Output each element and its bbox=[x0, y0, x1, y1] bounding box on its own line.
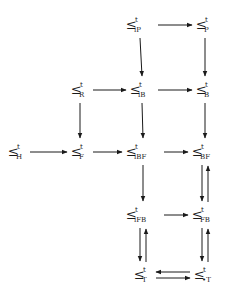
subscript: B bbox=[204, 91, 209, 99]
node-iBF: ≤tiBF bbox=[126, 143, 146, 161]
superscript: t bbox=[80, 143, 83, 151]
subscript: BF bbox=[200, 153, 210, 161]
node-BF: ≤tBF bbox=[192, 143, 210, 161]
subscript: iB bbox=[138, 91, 145, 99]
node-B: ≤tB bbox=[196, 81, 209, 99]
node-T: ≤tT bbox=[134, 266, 147, 284]
subscript: T bbox=[142, 276, 147, 284]
superscript: t bbox=[17, 143, 20, 151]
subscript: FB bbox=[200, 216, 210, 224]
subscript: iFB bbox=[134, 216, 146, 224]
node-R: ≤tR bbox=[71, 81, 85, 99]
node-H: ≤tH bbox=[8, 143, 22, 161]
superscript: t bbox=[80, 81, 83, 89]
node-FB: ≤tFB bbox=[192, 206, 210, 224]
node-iFB: ≤tiFB bbox=[126, 206, 146, 224]
node-dT: ≤t•T bbox=[194, 266, 211, 284]
node-P: ≤tP bbox=[196, 16, 209, 34]
superscript: t bbox=[135, 16, 138, 24]
superscript: t bbox=[139, 81, 142, 89]
subscript: F bbox=[79, 153, 84, 161]
subscript: H bbox=[16, 153, 22, 161]
nodes: ≤tiP≤tP≤tR≤tiB≤tB≤tH≤tF≤tiBF≤tBF≤tiFB≤tF… bbox=[8, 16, 211, 284]
subscript: iP bbox=[134, 26, 141, 34]
subscript: P bbox=[204, 26, 209, 34]
subscript: iBF bbox=[134, 153, 146, 161]
superscript: t bbox=[135, 206, 138, 214]
superscript: t bbox=[135, 143, 138, 151]
node-iP: ≤tiP bbox=[126, 16, 141, 34]
node-iB: ≤tiB bbox=[130, 81, 145, 99]
superscript: t bbox=[201, 206, 204, 214]
ordering-diagram: ≤tiP≤tP≤tR≤tiB≤tB≤tH≤tF≤tiBF≤tBF≤tiFB≤tF… bbox=[0, 0, 227, 294]
subscript: R bbox=[79, 91, 85, 99]
superscript: t bbox=[143, 266, 146, 274]
superscript: t bbox=[201, 143, 204, 151]
node-F: ≤tF bbox=[71, 143, 84, 161]
arrow-iB-to-iBF bbox=[142, 103, 143, 138]
superscript: t bbox=[203, 266, 206, 274]
superscript: t bbox=[205, 81, 208, 89]
edges bbox=[30, 25, 208, 278]
subscript: •T bbox=[202, 276, 211, 284]
superscript: t bbox=[205, 16, 208, 24]
arrow-iP-to-iB bbox=[140, 38, 142, 76]
